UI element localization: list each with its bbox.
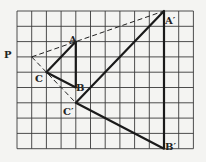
label-a-prime: A′ bbox=[164, 15, 176, 26]
ray-p-to-a-prime bbox=[32, 11, 164, 57]
label-a: A bbox=[68, 34, 77, 45]
label-p: P bbox=[4, 49, 12, 60]
label-c: C bbox=[35, 73, 43, 84]
grid bbox=[17, 11, 193, 149]
label-c-prime: C′ bbox=[63, 106, 74, 117]
dilation-diagram: P A B C A′ B′ C′ bbox=[0, 0, 206, 162]
label-b: B bbox=[76, 82, 84, 93]
label-b-prime: B′ bbox=[165, 141, 176, 152]
